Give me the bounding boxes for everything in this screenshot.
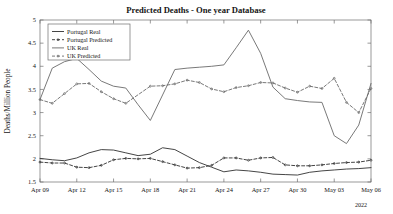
x-tick-label: Apr 09 (31, 186, 49, 193)
legend-label-uk-predicted: UK Predicted (67, 53, 100, 59)
x-tick-label: Apr 15 (105, 186, 123, 193)
y-axis-label: Deaths/Million People (4, 69, 12, 134)
x-tick-label: Apr 21 (178, 186, 196, 193)
x-tick-label: May 03 (324, 186, 344, 193)
x-tick-label: May 06 (361, 186, 381, 193)
y-tick-label: 4.5 (28, 39, 36, 46)
y-tick-label: 3.5 (28, 86, 36, 93)
y-tick-label: 2 (33, 155, 36, 162)
x-tick-label: Apr 12 (68, 186, 86, 193)
chart-canvas: Predicted Deaths - One year Database 1.5… (0, 0, 393, 214)
x-tick-label: Apr 27 (252, 186, 271, 193)
y-tick-label: 2.5 (28, 132, 36, 139)
chart-title: Predicted Deaths - One year Database (126, 5, 265, 15)
legend-label-portugal-predicted: Portugal Predicted (67, 37, 112, 43)
year-annotation: 2022 (355, 202, 367, 208)
legend-label-uk-real: UK Real (67, 45, 89, 51)
x-tick-label: Apr 24 (215, 186, 234, 193)
y-tick-label: 5 (33, 16, 36, 23)
chart-figure: Predicted Deaths - One year Database 1.5… (0, 0, 393, 214)
y-tick-label: 1.5 (28, 178, 36, 185)
x-tick-label: Apr 30 (288, 186, 306, 193)
legend-group[interactable]: Portugal RealPortugal PredictedUK RealUK… (48, 24, 130, 60)
y-tick-label: 3 (33, 109, 36, 116)
x-tick-label: Apr 18 (141, 186, 159, 193)
legend-label-portugal-real: Portugal Real (67, 29, 101, 35)
